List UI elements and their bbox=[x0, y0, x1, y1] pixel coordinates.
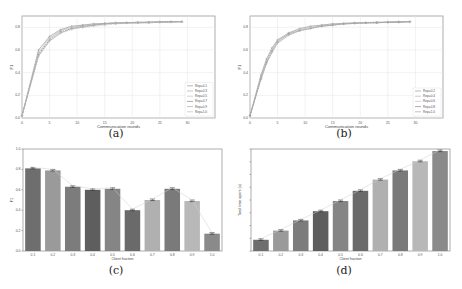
bar bbox=[25, 168, 41, 251]
bar bbox=[45, 170, 61, 251]
y-tick-label: 0.0 bbox=[15, 116, 20, 120]
x-tick-label: 25 bbox=[158, 121, 162, 125]
x-tick-label: 1.0 bbox=[438, 253, 443, 257]
legend-label: Rep=0.6 bbox=[423, 99, 435, 103]
y-tick-label: 1.0 bbox=[16, 147, 21, 151]
y-tick-label: 0.4 bbox=[15, 71, 20, 75]
y-tick-label: 0.6 bbox=[15, 48, 20, 52]
legend-label: Rep=1.0 bbox=[423, 110, 435, 114]
x-tick-label: 0.1 bbox=[259, 253, 264, 257]
x-tick-label: 10 bbox=[75, 121, 79, 125]
y-tick-label: 0.4 bbox=[243, 71, 248, 75]
x-tick-label: 0.3 bbox=[298, 253, 303, 257]
x-tick-label: 30 bbox=[413, 121, 417, 125]
x-tick-label: 30 bbox=[185, 121, 189, 125]
caption-a: (a) bbox=[96, 127, 136, 140]
legend-label: Rep=0.1 bbox=[195, 84, 207, 88]
bar-chart-c: 0.00.20.40.60.81.00.10.20.30.40.50.60.70… bbox=[0, 145, 231, 270]
bar bbox=[353, 191, 369, 251]
bar bbox=[164, 189, 180, 251]
bar bbox=[293, 220, 309, 251]
x-tick-label: 10 bbox=[303, 121, 307, 125]
legend-label: Rep=0.7 bbox=[195, 99, 207, 103]
bar bbox=[333, 201, 349, 251]
bar bbox=[204, 234, 220, 251]
y-tick-label: 0.4 bbox=[16, 208, 21, 212]
bar bbox=[373, 180, 389, 251]
y-tick-label: 0.0 bbox=[243, 116, 248, 120]
x-tick-label: 0 bbox=[249, 121, 251, 125]
bar-chart-d: 0.10.20.30.40.50.60.70.80.91.0Client fra… bbox=[231, 145, 462, 270]
y-tick-label: 0.2 bbox=[15, 93, 20, 97]
line-chart-b: 0510152025300.00.20.40.60.8Communication… bbox=[231, 0, 462, 130]
y-tick-label: 0.8 bbox=[15, 25, 20, 29]
y-tick-label: 0.2 bbox=[243, 93, 248, 97]
x-tick-label: 5 bbox=[49, 121, 51, 125]
x-tick-label: 0.2 bbox=[50, 253, 55, 257]
x-tick-label: 0.3 bbox=[70, 253, 75, 257]
bar bbox=[253, 240, 269, 251]
caption-b: (b) bbox=[324, 127, 364, 140]
legend-label: Rep=0.5 bbox=[195, 94, 207, 98]
panel-a: 0510152025300.00.20.40.60.8Communication… bbox=[0, 0, 231, 145]
bar bbox=[184, 201, 200, 251]
y-tick-label: 0.0 bbox=[16, 249, 21, 253]
line-chart-a: 0510152025300.00.20.40.60.8Communication… bbox=[0, 0, 231, 130]
y-axis-label: F1 bbox=[10, 198, 14, 202]
legend-label: Rep=0.8 bbox=[423, 105, 435, 109]
legend-label: Rep=1.0 bbox=[195, 110, 207, 114]
panel-d: 0.10.20.30.40.50.60.70.80.91.0Client fra… bbox=[231, 145, 462, 289]
bar bbox=[412, 161, 428, 251]
legend-label: Rep=0.2 bbox=[423, 89, 435, 93]
x-axis-label: Client fraction bbox=[112, 257, 134, 261]
x-tick-label: 0.4 bbox=[318, 253, 323, 257]
x-tick-label: 0.4 bbox=[90, 253, 95, 257]
bar bbox=[392, 170, 408, 251]
x-tick-label: 25 bbox=[386, 121, 390, 125]
x-tick-label: 0.8 bbox=[398, 253, 403, 257]
y-axis-label: F1 bbox=[9, 64, 14, 70]
x-tick-label: 0.7 bbox=[378, 253, 383, 257]
bar bbox=[313, 211, 329, 251]
x-tick-label: 0.2 bbox=[278, 253, 283, 257]
x-tick-label: 1.0 bbox=[210, 253, 215, 257]
x-tick-label: 0.9 bbox=[190, 253, 195, 257]
caption-d: (d) bbox=[324, 264, 364, 277]
y-tick-label: 0.6 bbox=[243, 48, 248, 52]
bar bbox=[125, 210, 141, 251]
y-tick-label: 0.2 bbox=[16, 229, 21, 233]
x-tick-label: 0.7 bbox=[150, 253, 155, 257]
caption-c: (c) bbox=[96, 264, 136, 277]
bar bbox=[432, 151, 448, 251]
x-tick-label: 0 bbox=[21, 121, 23, 125]
bar bbox=[145, 200, 161, 251]
legend-label: Rep=0.3 bbox=[195, 89, 207, 93]
x-tick-label: 5 bbox=[277, 121, 279, 125]
legend-label: Rep=0.4 bbox=[423, 94, 435, 98]
bar bbox=[105, 189, 121, 251]
bar bbox=[65, 187, 81, 251]
x-axis-label: Client fraction bbox=[340, 257, 362, 261]
y-tick-label: 0.6 bbox=[16, 188, 21, 192]
bar bbox=[273, 231, 289, 251]
x-tick-label: 0.9 bbox=[418, 253, 423, 257]
panel-b: 0510152025300.00.20.40.60.8Communication… bbox=[231, 0, 462, 145]
x-tick-label: 0.1 bbox=[31, 253, 36, 257]
panel-c: 0.00.20.40.60.81.00.10.20.30.40.50.60.70… bbox=[0, 145, 231, 289]
legend-label: Rep=0.9 bbox=[195, 105, 207, 109]
x-tick-label: 0.8 bbox=[170, 253, 175, 257]
bar bbox=[85, 190, 101, 251]
y-axis-label: Total time spent (s) bbox=[238, 183, 242, 216]
y-tick-label: 0.8 bbox=[16, 167, 21, 171]
y-axis-label: F1 bbox=[237, 64, 242, 70]
y-tick-label: 0.8 bbox=[243, 25, 248, 29]
